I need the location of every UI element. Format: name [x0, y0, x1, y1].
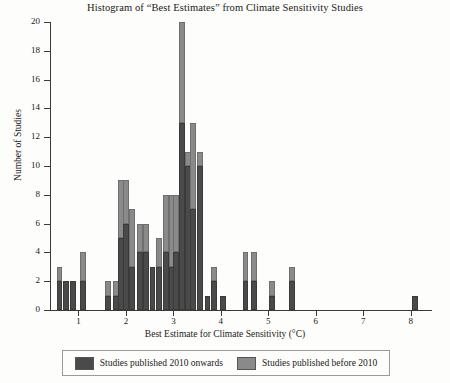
bar-segment-before-2010 [179, 22, 185, 123]
x-tick-label: 1 [68, 317, 88, 326]
histogram-bar [156, 238, 162, 310]
histogram-bar [412, 296, 418, 310]
legend-label: Studies published before 2010 [262, 358, 377, 368]
x-tick-label: 8 [401, 317, 421, 326]
x-tick-label: 3 [163, 317, 183, 326]
bar-segment-before-2010 [156, 238, 162, 267]
bar-segment-2010-onwards [129, 267, 135, 310]
x-tick-label: 6 [306, 317, 326, 326]
histogram-bar [220, 296, 226, 310]
y-tick-label: 18 [18, 46, 40, 55]
y-tick-label: 2 [18, 276, 40, 285]
histogram-bar [289, 267, 295, 310]
histogram-bar [251, 252, 257, 310]
bar-segment-2010-onwards [156, 267, 162, 310]
bar-segment-before-2010 [143, 224, 149, 253]
y-tick-label: 6 [18, 219, 40, 228]
histogram-bar [57, 267, 63, 310]
y-axis-label: Number of Studies [13, 80, 23, 210]
bar-segment-2010-onwards [197, 166, 203, 310]
bar-segment-2010-onwards [70, 281, 76, 310]
bar-segment-2010-onwards [412, 296, 418, 310]
histogram-bar [211, 267, 217, 310]
histogram-bar [129, 209, 135, 310]
y-tick-mark [44, 310, 50, 311]
bar-segment-before-2010 [243, 252, 249, 281]
histogram-bar [190, 123, 196, 310]
histogram-bar [105, 281, 111, 310]
bar-segment-before-2010 [80, 252, 86, 281]
bar-segment-2010-onwards [211, 281, 217, 310]
x-tick-label: 4 [211, 317, 231, 326]
bar-segment-2010-onwards [251, 281, 257, 310]
bar-segment-2010-onwards [190, 209, 196, 310]
y-tick-label: 4 [18, 247, 40, 256]
bar-segment-before-2010 [269, 281, 275, 295]
histogram-bar [143, 224, 149, 310]
legend-entry: Studies published 2010 onwards [75, 357, 223, 370]
bar-segment-2010-onwards [57, 281, 63, 310]
bar-segment-2010-onwards [105, 296, 111, 310]
histogram-bar [197, 152, 203, 310]
legend-swatch [75, 357, 94, 370]
x-axis-line [50, 310, 432, 311]
bar-segment-2010-onwards [80, 281, 86, 310]
x-tick-label: 5 [258, 317, 278, 326]
histogram-bar [205, 296, 211, 310]
histogram-bar [243, 252, 249, 310]
legend-swatch [237, 357, 256, 370]
histogram-figure: Histogram of “Best Estimates” from Clima… [0, 0, 450, 383]
bar-segment-2010-onwards [220, 296, 226, 310]
x-tick-label: 7 [353, 317, 373, 326]
bar-segment-before-2010 [289, 267, 295, 281]
bar-segment-before-2010 [251, 252, 257, 281]
bar-segment-before-2010 [105, 281, 111, 295]
bar-segment-before-2010 [197, 152, 203, 166]
y-tick-label: 20 [18, 17, 40, 26]
bar-segment-2010-onwards [205, 296, 211, 310]
bar-segment-before-2010 [211, 267, 217, 281]
x-axis-label: Best Estimate for Climate Sensitivity (°… [0, 329, 450, 339]
bar-segment-2010-onwards [289, 281, 295, 310]
bar-segment-2010-onwards [269, 296, 275, 310]
legend-label: Studies published 2010 onwards [100, 358, 223, 368]
histogram-bar [70, 281, 76, 310]
chart-title: Histogram of “Best Estimates” from Clima… [0, 2, 450, 13]
bar-segment-2010-onwards [243, 281, 249, 310]
legend-entry: Studies published before 2010 [237, 357, 377, 370]
bar-segment-before-2010 [57, 267, 63, 281]
bar-segment-2010-onwards [63, 281, 69, 310]
bar-segment-before-2010 [190, 123, 196, 209]
x-tick-label: 2 [116, 317, 136, 326]
histogram-bar [269, 281, 275, 310]
y-tick-label: 0 [18, 305, 40, 314]
chart-legend: Studies published 2010 onwardsStudies pu… [62, 350, 390, 376]
bar-segment-2010-onwards [143, 252, 149, 310]
histogram-bar [150, 267, 156, 310]
histogram-bar [63, 281, 69, 310]
histogram-bar [80, 252, 86, 310]
bar-segment-before-2010 [129, 209, 135, 267]
plot-area [50, 22, 432, 310]
bar-segment-2010-onwards [150, 267, 156, 310]
